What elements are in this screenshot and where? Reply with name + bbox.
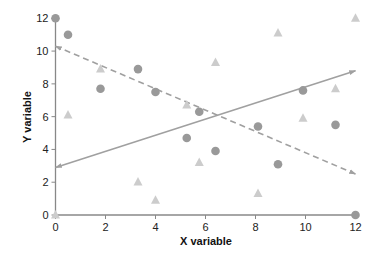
scatter-chart: 024681012024681012 X variable Y variable xyxy=(0,0,380,262)
y-tick-label: 2 xyxy=(42,176,48,188)
circle-point xyxy=(211,147,220,156)
triangle-point xyxy=(254,189,263,198)
circle-point xyxy=(64,30,73,39)
circle-point xyxy=(299,86,308,95)
triangle-point xyxy=(331,84,340,93)
y-tick-label: 0 xyxy=(42,209,48,221)
x-tick-label: 0 xyxy=(52,221,58,233)
x-tick-label: 4 xyxy=(152,221,158,233)
circle-point xyxy=(331,121,340,130)
x-tick-label: 8 xyxy=(252,221,258,233)
triangle-point xyxy=(195,157,204,166)
triangle-point xyxy=(182,100,191,109)
circle-point xyxy=(51,14,60,23)
circle-point xyxy=(96,84,105,93)
x-tick-label: 2 xyxy=(102,221,108,233)
circle-point xyxy=(351,211,360,220)
triangle-point xyxy=(51,210,60,219)
triangle-point xyxy=(96,64,105,73)
triangle-point xyxy=(151,195,160,204)
y-tick-label: 10 xyxy=(36,45,48,57)
triangle-point xyxy=(299,113,308,122)
triangle-point xyxy=(351,13,360,22)
circle-point xyxy=(195,107,204,116)
x-axis-title: X variable xyxy=(180,235,232,247)
x-tick-label: 12 xyxy=(349,221,361,233)
data-points xyxy=(51,13,360,219)
triangle-point xyxy=(134,177,143,186)
y-tick-label: 8 xyxy=(42,78,48,90)
x-tick-label: 10 xyxy=(299,221,311,233)
y-tick-label: 12 xyxy=(36,12,48,24)
circle-point xyxy=(254,122,263,131)
x-tick-label: 6 xyxy=(202,221,208,233)
circle-point xyxy=(182,134,191,143)
y-tick-label: 6 xyxy=(42,111,48,123)
triangle-point xyxy=(211,57,220,65)
triangle-point xyxy=(64,110,73,119)
circle-point xyxy=(134,65,143,74)
y-axis-title: Y variable xyxy=(21,91,33,143)
y-tick-label: 4 xyxy=(42,143,48,155)
circle-point xyxy=(151,88,160,97)
axes: 024681012024681012 xyxy=(36,12,361,233)
circle-point xyxy=(274,160,283,169)
triangle-point xyxy=(274,28,283,37)
